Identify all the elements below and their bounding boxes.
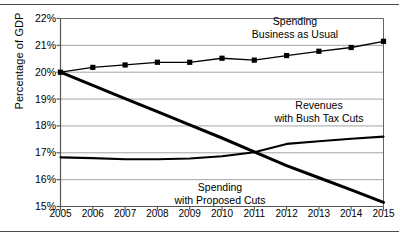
chart-figure: Percentage of GDP 22%21%20%19%18%17%16%1… — [0, 0, 399, 239]
annotation-spending-proposed-cuts: Spendingwith Proposed Cuts — [150, 181, 290, 206]
series-marker — [155, 60, 160, 65]
series-marker — [90, 65, 95, 70]
annotation-line: Spending — [225, 15, 365, 28]
annotation-line: Revenues — [250, 99, 388, 112]
series-marker — [316, 49, 321, 54]
x-axis-tick-labels: 2005200620072008200920102011201220132014… — [0, 208, 399, 224]
annotation-spending-business-as-usual: SpendingBusiness as Usual — [225, 15, 365, 40]
series-marker — [381, 39, 386, 44]
annotation-revenues-bush-tax-cuts: Revenueswith Bush Tax Cuts — [250, 99, 388, 124]
annotation-line: Business as Usual — [225, 28, 365, 41]
series-marker — [349, 45, 354, 50]
series-line — [61, 137, 384, 160]
series-marker — [219, 56, 224, 61]
x-tick-label: 2015 — [364, 208, 399, 220]
annotation-line: Spending — [150, 181, 290, 194]
series-marker — [187, 60, 192, 65]
annotation-line: with Proposed Cuts — [150, 194, 290, 207]
series-marker — [123, 62, 128, 67]
annotation-line: with Bush Tax Cuts — [250, 112, 388, 125]
series-marker — [284, 53, 289, 58]
series-marker — [252, 58, 257, 63]
